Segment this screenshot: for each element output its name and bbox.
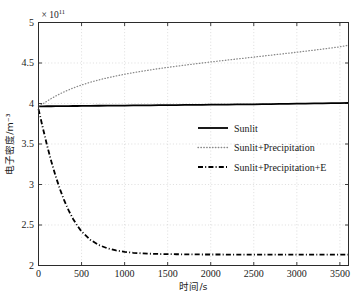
legend-label-2: Sunlit+Precipitation: [234, 142, 315, 153]
chart-canvas: 0500100015002000250030003500 22.533.544.…: [0, 0, 359, 302]
x-axis-title: 时间/s: [179, 281, 207, 292]
figure-container: 0500100015002000250030003500 22.533.544.…: [0, 0, 359, 302]
y-tick-label: 3.5: [22, 138, 35, 149]
y-axis-title: 电子密度/m⁻³: [4, 113, 15, 174]
x-tick-label: 1500: [158, 268, 178, 279]
legend-label-3: Sunlit+Precipitation+E: [234, 162, 326, 173]
x-tick-label: 3000: [287, 268, 307, 279]
y-tick-label: 2: [29, 260, 34, 271]
y-tick-label: 5: [29, 17, 34, 28]
x-tick-label: 0: [36, 268, 41, 279]
y-tick-label: 2.5: [22, 219, 35, 230]
y-tick-label: 4.5: [22, 57, 35, 68]
x-tick-label: 3500: [330, 268, 350, 279]
x-tick-label: 2000: [201, 268, 221, 279]
x-tick-label: 1000: [115, 268, 135, 279]
legend-label-1: Sunlit: [234, 123, 258, 134]
y-tick-label: 4: [29, 98, 34, 109]
x-tick-label: 2500: [244, 268, 264, 279]
y-tick-label: 3: [29, 179, 34, 190]
x-tick-label: 500: [74, 268, 89, 279]
